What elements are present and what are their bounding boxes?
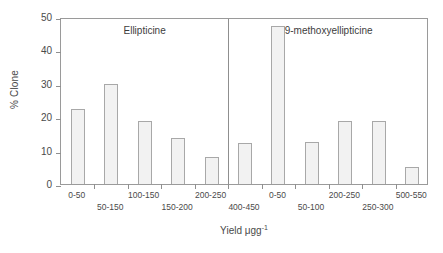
x-tick-4 (195, 184, 196, 189)
chart-figure: % Clone 01020304050 Ellipticine 9-methox… (0, 0, 443, 253)
x-tick-10 (396, 184, 397, 189)
bar (205, 157, 219, 184)
bar (138, 121, 152, 184)
y-tick-40: 40 (56, 52, 61, 53)
y-tick-30: 30 (56, 86, 61, 87)
bar (171, 138, 185, 184)
plot-area: 01020304050 Ellipticine 9-methoxyellipti… (60, 18, 428, 185)
bar (405, 167, 419, 184)
x-tick-label: 150-200 (154, 202, 200, 212)
y-tick-label-20: 20 (41, 112, 52, 123)
y-tick-0: 0 (56, 186, 61, 187)
x-tick-7 (295, 184, 296, 189)
y-tick-label-0: 0 (46, 179, 52, 190)
x-tick-label: 0-50 (254, 190, 300, 200)
x-tick-label: 400-450 (221, 202, 267, 212)
bar (104, 84, 118, 184)
x-tick-label: 500-550 (388, 190, 434, 200)
y-tick-label-30: 30 (41, 79, 52, 90)
x-tick-label: 50-100 (288, 202, 334, 212)
y-tick-label-50: 50 (41, 12, 52, 23)
x-axis-label-text: Yield μgg (220, 225, 262, 236)
x-axis-label-exponent: -1 (262, 224, 268, 231)
x-tick-9 (362, 184, 363, 189)
x-tick-label: 50-150 (87, 202, 133, 212)
x-tick-label: 200-250 (188, 190, 234, 200)
y-axis-label: % Clone (9, 50, 20, 130)
y-tick-50: 50 (56, 19, 61, 20)
x-tick-label: 250-300 (355, 202, 401, 212)
x-tick-5 (228, 184, 229, 189)
bar (271, 26, 285, 184)
y-tick-10: 10 (56, 153, 61, 154)
y-tick-label-10: 10 (41, 146, 52, 157)
x-tick-3 (161, 184, 162, 189)
panel-title-ellipticine: Ellipticine (61, 25, 228, 36)
bar (338, 121, 352, 184)
bar (372, 121, 386, 184)
x-axis-label: Yield μgg-1 (60, 224, 428, 236)
x-tick-1 (94, 184, 95, 189)
bar (305, 142, 319, 184)
x-tick-label: 200-250 (321, 190, 367, 200)
x-tick-label: 100-150 (121, 190, 167, 200)
panel-divider (228, 19, 229, 184)
y-tick-label-40: 40 (41, 45, 52, 56)
bar (238, 143, 252, 184)
y-tick-20: 20 (56, 119, 61, 120)
x-tick-2 (128, 184, 129, 189)
panel-title-9-methoxyellipticine: 9-methoxyellipticine (228, 25, 429, 36)
bar (71, 109, 85, 184)
x-tick-6 (262, 184, 263, 189)
x-tick-label: 0-50 (54, 190, 100, 200)
x-tick-8 (329, 184, 330, 189)
